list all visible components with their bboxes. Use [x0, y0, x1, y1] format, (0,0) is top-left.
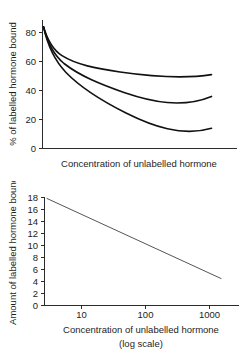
top-y-tick-label-40: 40	[25, 85, 36, 96]
bottom-x-tick-label-10: 10	[76, 309, 87, 320]
bottom-y-tick-label-2: 2	[33, 288, 38, 299]
bottom-y-tick-label-10: 10	[27, 240, 38, 251]
bottom-y-tick-label-4: 4	[33, 276, 38, 287]
figure-page: 0 20 40 60 80 % of labelled hormone boun…	[0, 0, 245, 363]
bottom-y-axis-title: Amount of labelled hormone bound	[7, 181, 18, 325]
bottom-y-tick-label-8: 8	[33, 252, 38, 263]
top-y-ticks	[39, 33, 43, 149]
bottom-y-tick-label-18: 18	[27, 192, 38, 203]
bottom-data-line	[47, 199, 221, 279]
top-curve-series-2	[44, 27, 212, 103]
chart-bottom-svg: 0 2 4 6 8 10 12 14 16 18 10 100 1000 Amo…	[0, 181, 245, 363]
top-x-axis-title: Concentration of unlabelled hormone	[61, 158, 217, 169]
bottom-x-axis-title: Concentration of unlabelled hormone	[63, 324, 219, 335]
bottom-y-tick-label-16: 16	[27, 204, 38, 215]
top-y-tick-label-60: 60	[25, 56, 36, 67]
chart-top-standard-curve: 0 20 40 60 80 % of labelled hormone boun…	[0, 0, 245, 182]
bottom-y-ticks	[41, 198, 45, 306]
bottom-x-tick-label-1000: 1000	[199, 309, 220, 320]
bottom-y-tick-label-0: 0	[33, 300, 38, 311]
top-y-tick-label-0: 0	[31, 143, 36, 154]
bottom-y-tick-label-6: 6	[33, 264, 38, 275]
chart-bottom-log-curve: 0 2 4 6 8 10 12 14 16 18 10 100 1000 Amo…	[0, 181, 245, 363]
bottom-x-axis-subtitle: (log scale)	[119, 338, 163, 349]
bottom-y-tick-label-12: 12	[27, 228, 38, 239]
top-y-axis-title: % of labelled hormone bound	[7, 22, 18, 146]
chart-top-svg: 0 20 40 60 80 % of labelled hormone boun…	[0, 0, 245, 182]
top-curve-series-3	[44, 27, 212, 132]
top-y-tick-label-20: 20	[25, 114, 36, 125]
bottom-x-tick-label-100: 100	[138, 309, 154, 320]
bottom-y-tick-label-14: 14	[27, 216, 38, 227]
top-curve-series-1	[44, 27, 212, 77]
top-y-tick-label-80: 80	[25, 27, 36, 38]
